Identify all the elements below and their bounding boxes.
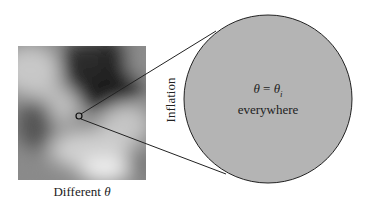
random-field-map [0, 40, 155, 182]
everywhere-text: everywhere [238, 101, 299, 117]
theta-equation: θ = θi [238, 81, 299, 102]
diagram-canvas [0, 0, 367, 208]
map-caption: Different θ [18, 184, 146, 200]
inflation-label: Inflation [163, 78, 179, 123]
circle-label: θ = θi everywhere [238, 81, 299, 118]
